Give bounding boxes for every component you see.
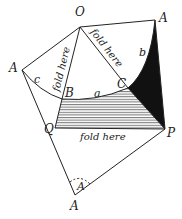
label-a-bottom: A [69,199,79,213]
fold-diagram: O A A B C Q P A a b c A fold here fold h… [0,0,182,219]
label-segment-a: a [94,87,101,100]
fold-label-bottom: fold here [79,131,126,142]
label-a-top-right: A [158,11,168,25]
label-a-left: A [8,61,18,75]
label-o: O [75,5,85,19]
label-segment-b: b [139,46,146,59]
label-b: B [64,86,74,100]
label-p: P [166,126,176,140]
label-angle-a: A [76,180,85,193]
edge-o-a-top [80,20,155,27]
label-c: C [117,77,126,91]
label-q: Q [44,122,54,136]
fold-label-right: fold here [88,26,125,70]
label-segment-c: c [34,73,40,86]
